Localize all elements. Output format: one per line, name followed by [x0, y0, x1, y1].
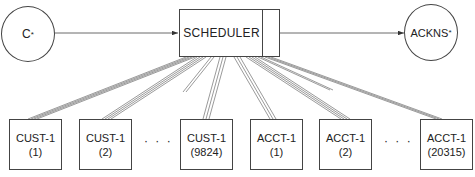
scheduler-queue-tab	[262, 10, 279, 56]
acct-box-1: ACCT-1 (1)	[250, 119, 303, 170]
scheduler-node: SCHEDULER	[179, 9, 280, 57]
scheduler-label: SCHEDULER	[183, 26, 260, 40]
box-index: (2)	[339, 145, 352, 159]
sink-node-ackns: ACKNS*	[404, 4, 458, 61]
box-name: CUST-1	[86, 131, 125, 145]
source-node-c: C*	[1, 6, 55, 62]
cust-box-1: CUST-1 (1)	[9, 119, 62, 170]
box-name: CUST-1	[187, 131, 226, 145]
box-index: (1)	[29, 145, 42, 159]
cust-ellipsis: · · ·	[144, 134, 173, 148]
acct-box-20315: ACCT-1 (20315)	[420, 119, 473, 170]
box-name: ACCT-1	[326, 131, 365, 145]
cust-box-2: CUST-1 (2)	[79, 119, 132, 170]
box-index: (1)	[270, 145, 283, 159]
box-index: (20315)	[428, 145, 466, 159]
sink-label: ACKNS	[410, 27, 448, 39]
box-index: (9824)	[191, 145, 223, 159]
box-index: (2)	[99, 145, 112, 159]
source-mark: *	[31, 30, 34, 39]
cust-box-9824: CUST-1 (9824)	[180, 119, 233, 170]
acct-ellipsis: · · ·	[384, 134, 413, 148]
acct-box-2: ACCT-1 (2)	[319, 119, 372, 170]
source-label: C	[22, 27, 31, 41]
box-name: ACCT-1	[427, 131, 466, 145]
sink-mark: *	[448, 28, 451, 37]
box-name: ACCT-1	[257, 131, 296, 145]
box-name: CUST-1	[16, 131, 55, 145]
